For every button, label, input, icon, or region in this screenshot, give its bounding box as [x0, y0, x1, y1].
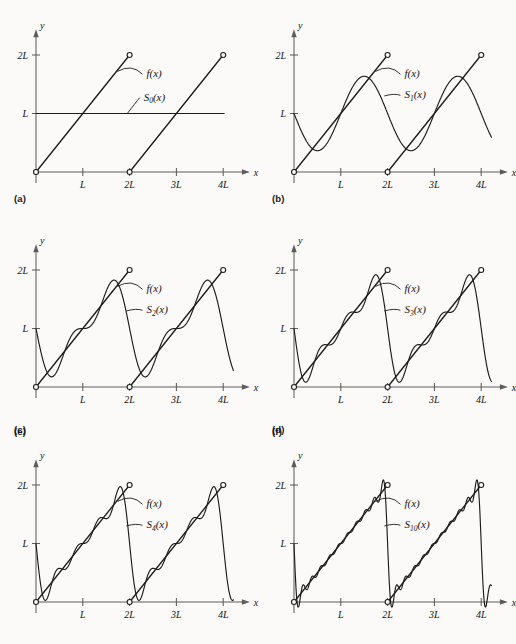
panel-label-e: (e) — [14, 426, 26, 437]
y-tick-label: 2L — [17, 480, 28, 491]
y-tick-label: 2L — [17, 265, 28, 276]
open-endpoint-marker — [385, 385, 390, 390]
s-curve-label: S3(x) — [404, 303, 426, 318]
f-curve-label: f(x) — [404, 282, 420, 295]
open-endpoint-marker — [479, 268, 484, 273]
x-tick-label: 4L — [476, 609, 487, 620]
x-tick-label: L — [79, 179, 86, 190]
x-axis-arrow-icon — [500, 599, 508, 604]
open-endpoint-marker — [34, 385, 39, 390]
s-curve-label: S1(x) — [404, 88, 426, 103]
x-axis-label: x — [511, 382, 516, 393]
x-tick-label: 3L — [170, 609, 182, 620]
open-endpoint-marker — [127, 483, 132, 488]
x-tick-label: 3L — [428, 179, 440, 190]
f-label-leader — [117, 283, 142, 289]
y-tick-label: L — [279, 538, 286, 549]
x-axis-label: x — [511, 597, 516, 608]
plot-b: xyL2L3L4LL2Lf(x)S1(x) — [258, 0, 516, 215]
open-endpoint-marker — [479, 53, 484, 58]
panel-c: xyL2L3L4LL2Lf(x)S2(x) — [0, 215, 258, 430]
open-endpoint-marker — [221, 53, 226, 58]
panel-e: xyL2L3L4LL2Lf(x)S4(x) — [0, 430, 258, 644]
open-endpoint-marker — [385, 53, 390, 58]
x-tick-label: 2L — [382, 609, 393, 620]
x-axis-arrow-icon — [500, 384, 508, 389]
y-tick-label: L — [21, 323, 28, 334]
x-tick-label: L — [79, 394, 86, 405]
open-endpoint-marker — [292, 385, 297, 390]
x-tick-label: 4L — [476, 394, 487, 405]
panel-label-a: (a) — [14, 193, 26, 204]
x-tick-label: 2L — [124, 609, 135, 620]
y-tick-label: 2L — [275, 265, 286, 276]
x-tick-label: 3L — [170, 179, 182, 190]
partial-sum-curve — [36, 487, 234, 601]
open-endpoint-marker — [385, 600, 390, 605]
f-curve-label: f(x) — [146, 497, 162, 510]
y-tick-label: L — [21, 538, 28, 549]
s-label-leader — [126, 309, 142, 311]
x-axis-arrow-icon — [500, 169, 508, 174]
open-endpoint-marker — [127, 170, 132, 175]
panel-d: xyL2L3L4LL2Lf(x)S3(x) — [258, 215, 516, 430]
y-axis-arrow-icon — [291, 459, 296, 467]
open-endpoint-marker — [127, 385, 132, 390]
s-curve-label: S2(x) — [146, 303, 168, 318]
y-tick-label: 2L — [275, 480, 286, 491]
x-tick-label: L — [337, 179, 344, 190]
s-curve-label: S10(x) — [404, 518, 430, 533]
x-tick-label: L — [337, 609, 344, 620]
f-label-leader — [375, 283, 400, 289]
panel-label-f: (f) — [272, 426, 282, 437]
y-tick-label: 2L — [17, 50, 28, 61]
x-tick-label: 3L — [428, 394, 440, 405]
x-tick-label: 4L — [476, 179, 487, 190]
f-curve-label: f(x) — [404, 497, 420, 510]
open-endpoint-marker — [34, 170, 39, 175]
s-label-leader — [127, 98, 139, 114]
s-curve-label: S4(x) — [146, 518, 168, 533]
s-label-leader — [384, 309, 400, 311]
figure-page: xyL2L3L4LL2Lf(x)S0(x) (a) xyL2L3L4LL2Lf(… — [0, 0, 516, 644]
f-label-leader — [117, 498, 142, 504]
plot-c: xyL2L3L4LL2Lf(x)S2(x) — [0, 215, 258, 430]
open-endpoint-marker — [127, 268, 132, 273]
f-label-leader — [117, 68, 142, 74]
open-endpoint-marker — [292, 170, 297, 175]
x-tick-label: 2L — [382, 179, 393, 190]
open-endpoint-marker — [385, 483, 390, 488]
y-tick-label: L — [21, 108, 28, 119]
plot-f: xyL2L3L4LL2Lf(x)S10(x) — [258, 430, 516, 644]
open-endpoint-marker — [127, 600, 132, 605]
panel-label-b: (b) — [272, 193, 285, 204]
s-label-leader — [126, 524, 142, 526]
x-tick-label: 4L — [218, 179, 229, 190]
f-curve-label: f(x) — [146, 67, 162, 80]
f-label-leader — [375, 68, 400, 74]
y-tick-label: L — [279, 108, 286, 119]
open-endpoint-marker — [479, 483, 484, 488]
plot-d: xyL2L3L4LL2Lf(x)S3(x) — [258, 215, 516, 430]
partial-sum-curve — [294, 76, 492, 150]
y-axis-arrow-icon — [291, 244, 296, 252]
x-tick-label: 3L — [428, 609, 440, 620]
y-axis-label: y — [39, 235, 45, 246]
x-axis-arrow-icon — [242, 169, 250, 174]
x-tick-label: 2L — [124, 394, 135, 405]
open-endpoint-marker — [385, 170, 390, 175]
y-axis-label: y — [297, 20, 303, 31]
x-axis-arrow-icon — [242, 599, 250, 604]
x-tick-label: 3L — [170, 394, 182, 405]
x-tick-label: 4L — [218, 609, 229, 620]
open-endpoint-marker — [385, 268, 390, 273]
y-axis-label: y — [39, 20, 45, 31]
x-tick-label: L — [79, 609, 86, 620]
plot-e: xyL2L3L4LL2Lf(x)S4(x) — [0, 430, 258, 644]
open-endpoint-marker — [221, 483, 226, 488]
y-tick-label: L — [279, 323, 286, 334]
open-endpoint-marker — [221, 268, 226, 273]
x-tick-label: L — [337, 394, 344, 405]
y-axis-label: y — [297, 450, 303, 461]
x-tick-label: 2L — [382, 394, 393, 405]
